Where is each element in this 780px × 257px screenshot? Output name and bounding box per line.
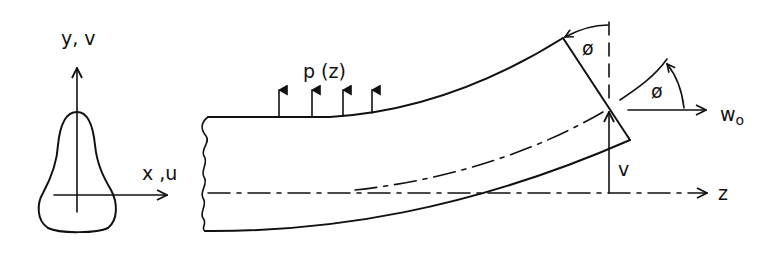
rotation-label-right: ø	[651, 80, 663, 102]
o-subscript: o	[736, 112, 745, 128]
cross-section: y, v x ,u	[39, 27, 178, 232]
rotation-label-top: ø	[582, 37, 594, 59]
deflected-centerline	[355, 112, 603, 190]
distributed-load-arrows	[279, 90, 372, 117]
y-v-axis-label: y, v	[61, 27, 96, 49]
axial-displacement-label: wo	[720, 103, 744, 128]
beam-end-face	[563, 38, 630, 140]
z-axis-label: z	[718, 182, 728, 204]
w-symbol: w	[720, 103, 736, 125]
rotation-arc-right	[667, 64, 684, 108]
x-u-axis-label: x ,u	[142, 162, 177, 184]
beam-diagram: y, v x ,u p (z) ø v w	[0, 0, 780, 257]
load-label: p (z)	[303, 60, 346, 82]
beam-break-line	[202, 117, 208, 231]
beam-top-edge	[208, 38, 563, 117]
beam-bottom-edge	[205, 140, 630, 231]
beam: p (z) ø v wo ø z	[202, 22, 744, 231]
rotation-arc-top	[565, 25, 608, 37]
deflection-label: v	[618, 158, 629, 180]
